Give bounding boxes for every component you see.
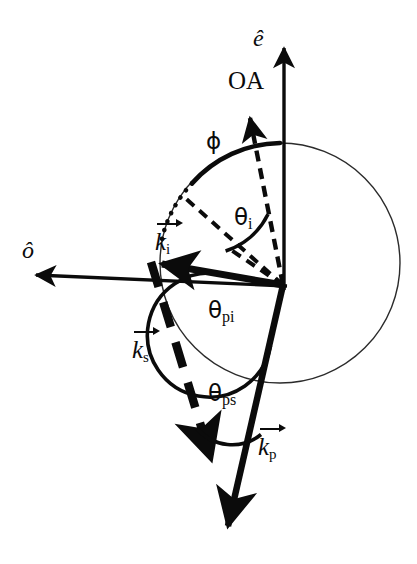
k-s-symbol: k (132, 336, 143, 363)
vector-geometry-svg (0, 0, 417, 564)
theta-pi-base: θ (208, 297, 222, 323)
k-p-subscript: p (269, 446, 277, 462)
optic-axis-label: OA (228, 68, 264, 93)
theta-pi-subscript: pi (222, 308, 234, 325)
phi-label: ϕ (206, 130, 221, 153)
k-p-vector-overbar-icon (260, 424, 286, 433)
k-s-vector (151, 262, 211, 459)
theta-ps-subscript: ps (222, 391, 236, 408)
theta-pi-arc (147, 273, 270, 397)
k-i-subscript: i (166, 241, 170, 257)
k-s-label: ks (132, 327, 160, 366)
theta-i-subscript: i (248, 215, 252, 232)
theta-ps-label: θps (208, 382, 236, 408)
theta-pi-label: θpi (208, 299, 235, 325)
k-s-subscript: s (143, 349, 149, 365)
k-p-symbol: k (258, 433, 269, 460)
k-p-label: kp (258, 424, 286, 463)
e-hat-label: ê (253, 26, 264, 50)
o-hat-label: ô (22, 238, 34, 262)
k-i-vector-overbar-icon (157, 219, 183, 228)
k-i-symbol: k (155, 228, 166, 255)
theta-i-label: θi (234, 206, 253, 232)
theta-ps-base: θ (208, 380, 222, 406)
theta-i-base: θ (234, 204, 248, 230)
figure-canvas: ê OA ϕ θi ô ki θpi ks θps kp (0, 0, 417, 564)
k-s-vector-overbar-icon (134, 327, 160, 336)
k-i-label: ki (155, 219, 183, 258)
